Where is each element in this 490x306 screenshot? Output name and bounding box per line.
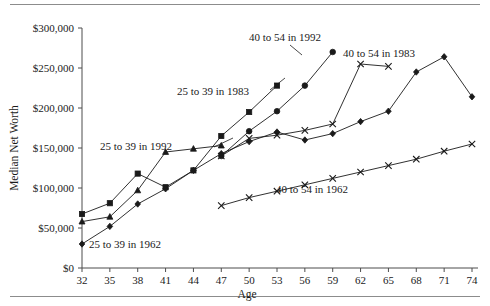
annotation-leader-line xyxy=(214,138,233,147)
x-tick-label: 59 xyxy=(327,274,339,286)
series-annotation-4: 40 to 54 in 1992 xyxy=(249,31,321,43)
data-point-x xyxy=(441,148,447,154)
data-point-square xyxy=(247,109,252,114)
y-tick-label: $250,000 xyxy=(33,62,75,74)
data-point-diamond xyxy=(330,130,336,136)
series-annotation-2: 25 to 39 in 1983 xyxy=(177,85,250,97)
y-tick-label: $200,000 xyxy=(33,102,75,114)
data-point-circle xyxy=(246,128,252,134)
y-tick-label: $50,000 xyxy=(38,222,74,234)
data-point-circle xyxy=(302,83,308,89)
data-point-x xyxy=(413,156,419,162)
series-annotation-3: 25 to 39 in 1962 xyxy=(89,238,161,250)
x-tick-label: 41 xyxy=(160,274,171,286)
data-point-square xyxy=(79,211,84,216)
series-line xyxy=(221,144,472,206)
x-tick-label: 53 xyxy=(272,274,284,286)
data-point-diamond xyxy=(274,129,280,135)
data-point-square xyxy=(219,133,224,138)
x-tick-label: 74 xyxy=(467,274,479,286)
data-point-diamond xyxy=(107,223,113,229)
series-2 xyxy=(79,142,224,224)
x-tick-label: 68 xyxy=(411,274,423,286)
y-tick-label: $300,000 xyxy=(33,22,75,34)
data-point-x xyxy=(330,175,336,181)
series-4 xyxy=(218,49,335,159)
data-point-x xyxy=(246,194,252,200)
data-point-diamond xyxy=(79,241,85,247)
x-tick-label: 71 xyxy=(439,274,450,286)
x-tick-label: 56 xyxy=(299,274,311,286)
data-point-diamond xyxy=(135,201,141,207)
series-line xyxy=(82,146,221,222)
x-axis-title: Age xyxy=(237,288,256,301)
data-point-diamond xyxy=(302,137,308,143)
series-5 xyxy=(218,61,392,159)
median-net-worth-line-chart: $0$50,000$100,000$150,000$200,000$250,00… xyxy=(0,0,490,306)
x-tick-label: 65 xyxy=(383,274,395,286)
data-point-x xyxy=(469,141,475,147)
x-tick-label: 62 xyxy=(355,274,366,286)
x-tick-label: 32 xyxy=(77,274,88,286)
series-annotation-6: 40 to 54 in 1962 xyxy=(276,183,348,195)
series-annotation-1: 25 to 39 in 1992 xyxy=(100,140,172,152)
data-point-x xyxy=(330,121,336,127)
annotation-leader-line xyxy=(290,45,302,55)
x-tick-label: 50 xyxy=(244,274,256,286)
x-tick-label: 44 xyxy=(188,274,200,286)
data-point-diamond xyxy=(358,118,364,124)
y-tick-label: $0 xyxy=(63,262,75,274)
data-point-x xyxy=(385,162,391,168)
data-point-circle xyxy=(274,108,280,114)
chart-figure: $0$50,000$100,000$150,000$200,000$250,00… xyxy=(0,0,490,306)
data-point-x xyxy=(357,169,363,175)
y-axis-title: Median Net Worth xyxy=(8,105,20,191)
x-tick-label: 47 xyxy=(216,274,228,286)
x-tick-label: 35 xyxy=(104,274,116,286)
x-tick-label: 38 xyxy=(132,274,144,286)
series-line xyxy=(221,52,332,156)
data-point-circle xyxy=(330,49,336,55)
series-annotation-5: 40 to 54 in 1983 xyxy=(343,47,416,59)
y-tick-label: $100,000 xyxy=(33,182,75,194)
data-point-square xyxy=(135,171,140,176)
data-point-x xyxy=(218,202,224,208)
data-point-square xyxy=(107,201,112,206)
series-6 xyxy=(218,141,475,209)
y-tick-label: $150,000 xyxy=(33,142,75,154)
